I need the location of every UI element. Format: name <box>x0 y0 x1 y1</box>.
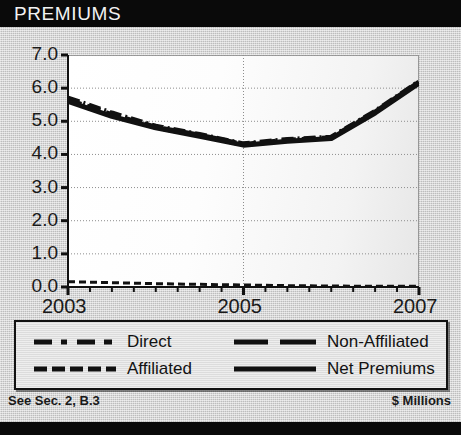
plot-container: 0.01.02.03.04.05.06.07.0 200320052007 <box>0 27 461 312</box>
legend-swatch-non-affiliated <box>232 335 318 349</box>
legend-label-net-premiums: Net Premiums <box>327 359 435 379</box>
legend-item-affiliated: Affiliated <box>32 355 192 383</box>
axis-lines <box>0 27 461 312</box>
legend-swatch-affiliated <box>32 362 118 376</box>
chart-legend: Direct Non-Affiliated Affiliated Net Pre… <box>14 320 448 390</box>
legend-swatch-net-premiums <box>232 362 318 376</box>
legend-item-net-premiums: Net Premiums <box>232 355 435 383</box>
source-note: See Sec. 2, B.3 <box>8 393 100 408</box>
legend-swatch-direct <box>32 335 118 349</box>
legend-label-direct: Direct <box>127 332 171 352</box>
legend-label-affiliated: Affiliated <box>127 359 192 379</box>
legend-item-non-affiliated: Non-Affiliated <box>232 328 429 356</box>
units-note: $ Millions <box>392 393 451 408</box>
page-title: PREMIUMS <box>14 3 121 25</box>
legend-item-direct: Direct <box>32 328 171 356</box>
legend-label-non-affiliated: Non-Affiliated <box>327 332 429 352</box>
chart-screenshot: PREMIUMS 0.01.02.03.04.05.06.07.0 200320… <box>0 0 461 435</box>
bottom-bar <box>0 422 461 435</box>
title-bar: PREMIUMS <box>0 0 461 27</box>
